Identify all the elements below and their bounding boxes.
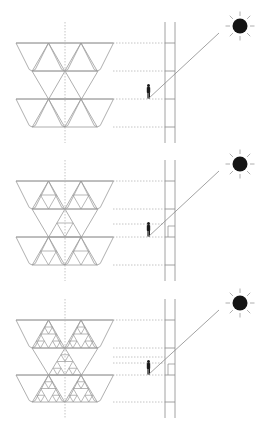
row-side: [32, 209, 49, 237]
row-side: [82, 348, 99, 375]
fractal-subdivision: [37, 395, 45, 402]
row-side: [32, 348, 49, 375]
upright-triangle-module: [32, 43, 65, 71]
diagram-canvas: [0, 0, 268, 444]
sun-icon: [226, 150, 255, 179]
panel-svg: [0, 145, 268, 285]
window-niche: [168, 364, 175, 375]
panel-iteration-2: [0, 285, 268, 444]
upright-triangle-module: [65, 99, 98, 127]
fractal-subdivision: [44, 327, 52, 334]
fractal-subdivision: [53, 368, 61, 375]
fractal-subdivision: [73, 251, 89, 265]
row-side: [32, 71, 49, 99]
window-niche: [168, 226, 175, 237]
person-silhouette-icon: [147, 222, 150, 237]
fractal-subdivision: [69, 395, 77, 402]
panel-svg: [0, 285, 268, 444]
inverted-triangle-module: [16, 99, 49, 127]
panel-svg: [0, 0, 268, 145]
person-silhouette-icon: [147, 360, 150, 375]
fractal-subdivision: [45, 382, 53, 389]
fractal-subdivision: [73, 195, 89, 209]
panel-iteration-0: [0, 0, 268, 145]
sun-icon: [226, 12, 255, 41]
inverted-triangle-module: [16, 43, 49, 71]
fractal-subdivision: [40, 195, 56, 209]
upright-triangle-module: [32, 99, 65, 127]
fractal-subdivision: [52, 395, 60, 402]
inverted-triangle-module: [81, 99, 114, 127]
person-silhouette-icon: [147, 84, 150, 99]
fractal-subdivision: [77, 327, 85, 334]
row-side: [82, 209, 99, 237]
fractal-subdivision: [77, 382, 85, 389]
sun-icon: [226, 289, 255, 318]
inverted-triangle-module: [81, 43, 114, 71]
fractal-subdivision: [40, 251, 56, 265]
upright-triangle-module: [65, 43, 98, 71]
fractal-subdivision: [69, 368, 77, 375]
row-side: [82, 71, 99, 99]
fractal-subdivision: [85, 395, 93, 402]
panel-iteration-1: [0, 145, 268, 285]
